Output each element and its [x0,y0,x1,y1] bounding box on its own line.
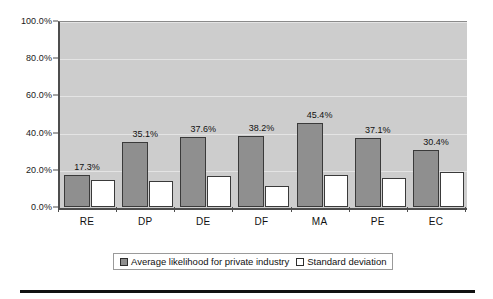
bar-chart-figure: 100.0% 80.0% 60.0% 40.0% 20.0% 0.0% 17.3… [0,0,493,299]
bar-dp-series1 [122,142,148,207]
legend-entry-standard-deviation: Standard deviation [296,256,386,267]
x-axis-label-re: RE [58,216,116,227]
legend-swatch-icon-secondary [296,258,304,266]
bar-dp-series2 [149,181,173,207]
x-axis-label-ec: EC [407,216,465,227]
y-tick-label-0: 0.0% [0,202,52,212]
y-tick-label-100: 100.0% [0,16,52,26]
bar-group: 35.1% [116,21,174,207]
bar-group: 45.4% [291,21,349,207]
x-axis-label-dp: DP [116,216,174,227]
bar-value-label-pe: 37.1% [349,125,407,135]
bar-de-series1 [180,137,206,207]
bar-group: 37.1% [349,21,407,207]
y-axis: 100.0% 80.0% 60.0% 40.0% 20.0% 0.0% [0,0,52,299]
x-axis-label-pe: PE [349,216,407,227]
bar-ec-series2 [440,172,464,207]
legend-entry-average-likelihood: Average likelihood for private industry [120,256,289,267]
bar-group: 38.2% [232,21,290,207]
x-tick-mark-ma [291,207,292,212]
bar-group: 37.6% [174,21,232,207]
bar-ec-series1 [413,150,439,207]
x-tick-mark-df [232,207,233,212]
bar-df-series1 [238,136,264,207]
bar-value-label-ma: 45.4% [291,110,349,120]
x-tick-mark-end [465,207,466,212]
chart-legend: Average likelihood for private industry … [113,253,393,270]
bar-pe-series2 [382,178,406,207]
bar-group: 30.4% [407,21,465,207]
x-tick-mark-re [58,207,59,212]
bar-ma-series1 [297,123,323,207]
bar-group: 17.3% [58,21,116,207]
x-tick-mark-pe [349,207,350,212]
y-tick-label-80: 80.0% [0,53,52,63]
legend-label-primary: Average likelihood for private industry [131,256,289,267]
bar-df-series2 [265,186,289,207]
bar-ma-series2 [324,175,348,207]
bottom-divider-rule [20,290,475,293]
bar-value-label-de: 37.6% [174,124,232,134]
bar-pe-series1 [355,138,381,207]
x-tick-mark-ec [407,207,408,212]
legend-label-secondary: Standard deviation [307,256,386,267]
x-tick-mark-dp [116,207,117,212]
bar-de-series2 [207,176,231,207]
bars-layer: 17.3%35.1%37.6%38.2%45.4%37.1%30.4% [58,21,465,207]
x-axis-labels: REDPDEDFMAPEEC [58,216,465,232]
x-axis-label-ma: MA [291,216,349,227]
x-tick-mark-de [174,207,175,212]
bar-value-label-dp: 35.1% [116,129,174,139]
x-axis-label-df: DF [232,216,290,227]
y-tick-label-60: 60.0% [0,90,52,100]
legend-swatch-icon-primary [120,258,128,266]
y-tick-label-20: 20.0% [0,165,52,175]
bar-value-label-ec: 30.4% [407,137,465,147]
bar-re-series2 [91,180,115,207]
x-axis-ticks [58,207,465,213]
bar-value-label-df: 38.2% [232,123,290,133]
bar-re-series1 [64,175,90,207]
bar-value-label-re: 17.3% [58,162,116,172]
x-axis-label-de: DE [174,216,232,227]
y-tick-label-40: 40.0% [0,128,52,138]
